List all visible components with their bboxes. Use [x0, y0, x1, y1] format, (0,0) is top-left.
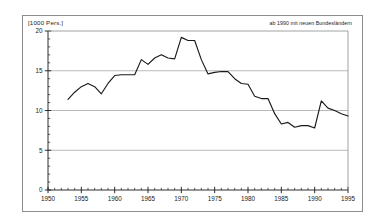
- x-tick-label-1965: 1965: [141, 195, 156, 202]
- gridlines: [48, 71, 348, 151]
- x-tick-label-1950: 1950: [41, 195, 56, 202]
- chart-figure: [1000 Pers.] ab 1990 mit neuen Bundeslän…: [0, 0, 380, 222]
- chart-plot-area: 05101520 1950195519601965197019751980198…: [0, 0, 380, 222]
- x-tick-label-1995: 1995: [341, 195, 356, 202]
- data-series-line: [68, 37, 348, 128]
- x-tick-label-1975: 1975: [208, 195, 223, 202]
- x-tick-label-1985: 1985: [274, 195, 289, 202]
- x-tick-label-1970: 1970: [174, 195, 189, 202]
- x-tick-label-1960: 1960: [108, 195, 123, 202]
- y-tick-label-20: 20: [35, 27, 43, 34]
- x-tick-label-1990: 1990: [308, 195, 323, 202]
- x-axis-tick-labels: 1950195519601965197019751980198519901995: [41, 195, 356, 202]
- x-tick-label-1980: 1980: [241, 195, 256, 202]
- y-tick-label-5: 5: [39, 147, 43, 154]
- y-tick-label-0: 0: [39, 186, 43, 193]
- y-tick-label-10: 10: [35, 107, 43, 114]
- x-tick-label-1955: 1955: [74, 195, 89, 202]
- y-tick-label-15: 15: [35, 67, 43, 74]
- y-axis-tick-labels: 05101520: [35, 27, 43, 193]
